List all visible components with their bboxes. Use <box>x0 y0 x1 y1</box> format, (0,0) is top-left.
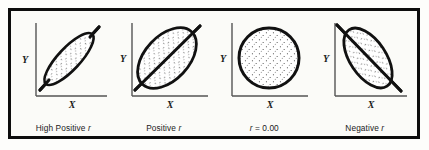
panel-caption-negative: Negative r <box>316 123 414 133</box>
caption-prefix: High Positive <box>36 123 88 133</box>
caption-suffix: = 0.00 <box>253 123 279 133</box>
y-axis-label: Y <box>120 53 127 64</box>
panel-caption-high-positive: High Positive r <box>14 123 112 133</box>
plot-area-positive: Y X <box>116 17 212 109</box>
y-axis-label: Y <box>22 54 29 65</box>
plot-area-high-positive: Y X <box>15 17 111 109</box>
panel-high-positive: Y X High Positive r <box>14 17 112 135</box>
plot-area-negative: Y X <box>317 17 413 109</box>
panel-row: Y X High Positive r <box>11 11 417 136</box>
x-axis-label: X <box>68 99 76 109</box>
correlation-figure: Y X High Positive r <box>0 0 429 150</box>
y-axis-label: Y <box>323 53 330 64</box>
panel-positive: Y X Positive r <box>115 17 213 135</box>
y-axis-label: Y <box>220 53 227 64</box>
caption-symbol-r: r <box>178 123 181 133</box>
x-axis-label: X <box>165 99 173 109</box>
panel-caption-zero: r = 0.00 <box>215 123 313 133</box>
caption-prefix: Positive <box>146 123 178 133</box>
panel-caption-positive: Positive r <box>115 123 213 133</box>
x-axis-label: X <box>266 99 274 109</box>
caption-symbol-r: r <box>88 123 91 133</box>
figure-frame: Y X High Positive r <box>8 8 420 139</box>
panel-zero: Y X r = 0.00 <box>215 17 313 135</box>
panel-negative: Y X Negative r <box>316 17 414 135</box>
data-cloud <box>239 28 299 88</box>
caption-prefix: Negative <box>345 123 381 133</box>
caption-symbol-r: r <box>381 123 384 133</box>
plot-area-zero: Y X <box>216 17 312 109</box>
x-axis-label: X <box>366 99 374 109</box>
